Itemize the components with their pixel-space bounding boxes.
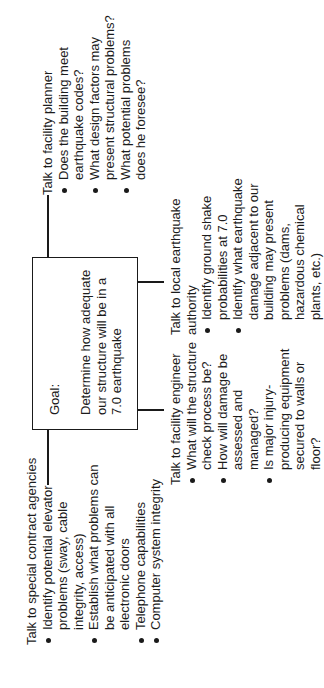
bullet-list: What will the structure check process be… bbox=[184, 335, 324, 485]
goal-label: Goal: bbox=[47, 384, 63, 415]
list-item: Computer system integrity bbox=[148, 460, 164, 645]
list-item: What potential problems does he foresee? bbox=[118, 15, 149, 195]
list-item: How will damage be assessed and managed? bbox=[215, 335, 262, 485]
branch-earthquake-authority: Talk to local earthquake authority Ident… bbox=[168, 170, 323, 335]
branch-special-contract: Talk to special contract agencies Identi… bbox=[24, 460, 164, 645]
branch-heading: Talk to facility planner bbox=[40, 15, 56, 195]
connector-earthquake-authority bbox=[138, 281, 164, 283]
goal-diagram: Goal: Determine how adequate our structu… bbox=[0, 0, 324, 688]
list-item: Telephone capabilities bbox=[133, 460, 149, 645]
list-item: Identify what earthquake damage adjacent… bbox=[230, 170, 323, 335]
branch-heading: Talk to special contract agencies bbox=[24, 460, 40, 645]
bullet-list: Identify ground shake probabilities at 7… bbox=[199, 170, 323, 335]
branch-facility-engineer: Talk to facility engineer What will the … bbox=[168, 335, 323, 485]
branch-heading: Talk to local earthquake authority bbox=[168, 175, 199, 335]
goal-text: Determine how adequate our structure wil… bbox=[78, 265, 125, 415]
goal-box: Goal: Determine how adequate our structu… bbox=[32, 257, 138, 430]
list-item: What design factors may present structur… bbox=[87, 15, 118, 195]
branch-heading: Talk to facility engineer bbox=[168, 335, 184, 485]
list-item: Does the building meet earthquake codes? bbox=[56, 15, 87, 195]
list-item: Is major injury-producing equipment secu… bbox=[261, 335, 323, 485]
bullet-list: Identify potential elevator problems (sw… bbox=[40, 460, 164, 645]
connector-facility-engineer bbox=[138, 409, 164, 411]
list-item: Identify potential elevator problems (sw… bbox=[40, 460, 87, 645]
bullet-list: Does the building meet earthquake codes?… bbox=[56, 15, 149, 195]
list-item: Establish what problems can be anticipat… bbox=[86, 460, 133, 645]
branch-facility-planner: Talk to facility planner Does the buildi… bbox=[40, 15, 149, 195]
list-item: Identify ground shake probabilities at 7… bbox=[199, 170, 230, 335]
list-item: What will the structure check process be… bbox=[184, 335, 215, 485]
